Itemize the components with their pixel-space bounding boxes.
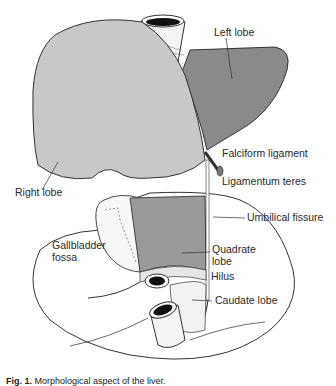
label-quadrate-line2: lobe xyxy=(212,256,232,267)
label-gallbladder-line2: fossa xyxy=(52,252,77,263)
figure-caption: Fig. 1. Morphological aspect of the live… xyxy=(6,376,166,386)
label-caudate-lobe: Caudate lobe xyxy=(215,295,277,306)
label-umbilical-fissure: Umbilical fissure xyxy=(247,212,323,223)
caption-text: Morphological aspect of the liver. xyxy=(35,376,166,386)
label-hilus: Hilus xyxy=(211,271,234,282)
label-quadrate-line1: Quadrate xyxy=(212,244,256,255)
label-ligamentum-teres: Ligamentum teres xyxy=(222,176,306,187)
caption-prefix: Fig. 1. xyxy=(6,376,32,386)
quadrate-lobe-shape xyxy=(130,196,206,272)
label-gallbladder-line1: Gallbladder xyxy=(52,240,106,251)
label-left-lobe: Left lobe xyxy=(214,27,254,38)
label-right-lobe: Right lobe xyxy=(15,187,62,198)
label-falciform-ligament: Falciform ligament xyxy=(222,148,308,159)
